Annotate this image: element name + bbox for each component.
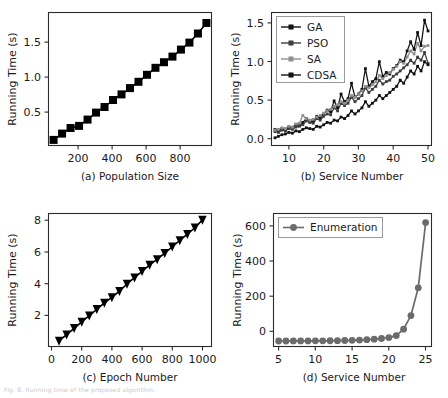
data-point [291, 126, 294, 129]
data-point [357, 110, 360, 113]
data-point [329, 122, 332, 125]
data-point [374, 80, 377, 83]
data-point [284, 127, 287, 130]
data-point [185, 39, 193, 47]
data-point [409, 50, 412, 53]
data-point [312, 118, 315, 121]
data-point [108, 293, 116, 302]
data-point [409, 40, 412, 43]
panel-a-xtick-1: 200 [68, 152, 89, 165]
panel-b-xtick-3: 30 [351, 152, 365, 165]
panel-c-xtick-6: 1000 [189, 353, 217, 366]
panel-a-ytick-3: 1.5 [24, 36, 42, 49]
data-point [177, 46, 185, 54]
data-point [283, 338, 290, 345]
data-point [75, 122, 83, 130]
data-point [364, 100, 367, 103]
data-point [319, 114, 322, 117]
data-point [420, 50, 423, 53]
data-point [194, 30, 202, 38]
panel-b-legend-label-sa: SA [307, 53, 322, 65]
data-point [334, 337, 341, 344]
data-point [357, 97, 360, 100]
data-point [423, 45, 426, 48]
data-point [374, 85, 377, 88]
data-point [422, 219, 429, 226]
panel-a-ytick-1: 0.5 [24, 106, 42, 119]
data-point [326, 121, 329, 124]
data-point [281, 133, 284, 136]
panel-a-xtick-3: 600 [136, 152, 157, 165]
panel-d-x-ticks: 5 10 15 20 25 [275, 347, 432, 367]
data-point [326, 113, 329, 116]
data-point [294, 129, 297, 132]
data-point [413, 53, 416, 56]
data-point [378, 94, 381, 97]
panel-c-plot [55, 216, 207, 346]
panel-c-xtick-3: 400 [101, 353, 122, 366]
data-point [416, 56, 419, 59]
data-point [277, 128, 280, 131]
panel-d-xtick-4: 20 [382, 353, 396, 366]
data-point [400, 326, 407, 333]
data-point [378, 60, 381, 63]
data-point [308, 127, 311, 130]
data-point [427, 44, 430, 47]
data-point [371, 102, 374, 105]
data-point [363, 336, 370, 343]
data-point [301, 114, 304, 117]
data-point [356, 337, 363, 344]
data-point [319, 119, 322, 122]
data-point [343, 102, 346, 105]
data-point [287, 131, 290, 134]
panel-c-ytick-3: 6 [34, 246, 41, 259]
data-point [315, 116, 318, 119]
data-point [416, 42, 419, 45]
data-point [354, 113, 357, 116]
panel-c-xtick-1: 0 [48, 353, 55, 366]
data-point [308, 119, 311, 122]
data-point [392, 68, 395, 71]
panel-d-xtick-3: 15 [345, 353, 359, 366]
data-point [350, 82, 353, 85]
data-point [393, 332, 400, 339]
panel-b-ytick-1: 0.0 [247, 133, 265, 146]
data-point [399, 70, 402, 73]
panel-b-xtick-4: 40 [386, 152, 400, 165]
panel-b-legend-label-ga: GA [307, 21, 323, 33]
data-point [58, 130, 66, 138]
data-point [385, 334, 392, 341]
data-point [336, 119, 339, 122]
panel-a-svg: 1.5 1.0 0.5 200 400 600 800 Running Time… [0, 0, 224, 199]
data-point [297, 338, 304, 345]
data-point [381, 77, 384, 80]
data-point [420, 70, 423, 73]
data-point [402, 66, 405, 69]
data-point [333, 119, 336, 122]
data-point [406, 50, 409, 53]
data-point [322, 123, 325, 126]
data-point [298, 122, 301, 125]
data-point [153, 255, 161, 264]
data-point [371, 80, 374, 83]
data-point [168, 53, 176, 61]
panel-d-ytick-4: 600 [245, 220, 266, 233]
data-point [388, 91, 391, 94]
data-point [409, 70, 412, 73]
panel-d-xtick-2: 10 [308, 353, 322, 366]
data-point [361, 94, 364, 97]
data-point [371, 88, 374, 91]
data-point [298, 130, 301, 133]
panel-d-ytick-1: 0 [259, 325, 266, 338]
data-point [354, 100, 357, 103]
panel-d-legend-label-enumeration: Enumeration [310, 221, 378, 233]
data-point [381, 97, 384, 100]
data-point [322, 115, 325, 118]
data-point [347, 99, 350, 102]
data-point [151, 64, 159, 72]
data-point [340, 116, 343, 119]
data-point [134, 78, 142, 86]
data-point [395, 65, 398, 68]
data-point [381, 83, 384, 86]
data-point [385, 71, 388, 74]
